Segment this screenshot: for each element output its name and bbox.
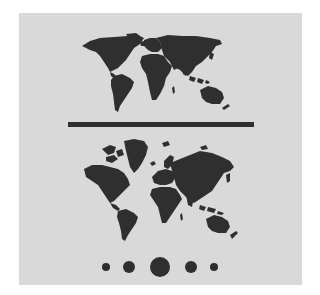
- pagination-dot-1[interactable]: [102, 263, 110, 271]
- pagination-dot-4[interactable]: [185, 261, 197, 273]
- world-map-bottom-icon: [82, 137, 242, 243]
- world-map-top-icon: [78, 32, 238, 116]
- separator-bar: [68, 122, 254, 127]
- pagination-dot-3-active[interactable]: [150, 257, 170, 277]
- pagination-dot-5[interactable]: [210, 263, 218, 271]
- pagination-dot-2[interactable]: [123, 261, 135, 273]
